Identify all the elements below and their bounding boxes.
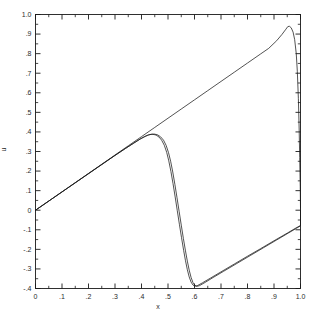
y-tick-label: .4 <box>26 128 32 135</box>
x-tick-label: .6 <box>192 293 198 300</box>
y-tick-label: .5 <box>26 109 32 116</box>
y-tick-label: .8 <box>26 50 32 57</box>
x-tick-label: .1 <box>59 293 65 300</box>
x-tick-label: .5 <box>165 293 171 300</box>
y-tick-label: -.3 <box>23 265 31 272</box>
y-tick-label: .2 <box>26 167 32 174</box>
y-tick-label: .6 <box>26 89 32 96</box>
x-axis-label: x <box>0 303 316 310</box>
y-axis-label: u <box>0 148 7 152</box>
x-tick-label: 1.0 <box>296 293 306 300</box>
y-tick-label: 0 <box>28 207 32 214</box>
y-tick-label: .7 <box>26 70 32 77</box>
plot-figure: 0.1.2.3.4.5.6.7.8.91.01.0.9.8.7.6.5.4.3.… <box>0 0 316 322</box>
y-tick-label: -.1 <box>23 226 31 233</box>
y-tick-label: -.2 <box>23 246 31 253</box>
y-tick-label: .1 <box>26 187 32 194</box>
x-tick-label: .9 <box>271 293 277 300</box>
chart-canvas: 0.1.2.3.4.5.6.7.8.91.01.0.9.8.7.6.5.4.3.… <box>0 0 316 322</box>
x-tick-label: .7 <box>218 293 224 300</box>
y-tick-label: .9 <box>26 30 32 37</box>
x-tick-label: 0 <box>34 293 38 300</box>
x-tick-label: .2 <box>86 293 92 300</box>
y-tick-label: 1.0 <box>22 11 32 18</box>
y-tick-label: -.4 <box>23 285 31 292</box>
x-tick-label: .8 <box>245 293 251 300</box>
x-tick-label: .4 <box>139 293 145 300</box>
y-tick-label: .3 <box>26 148 32 155</box>
series-line <box>36 134 301 286</box>
x-tick-label: .3 <box>112 293 118 300</box>
